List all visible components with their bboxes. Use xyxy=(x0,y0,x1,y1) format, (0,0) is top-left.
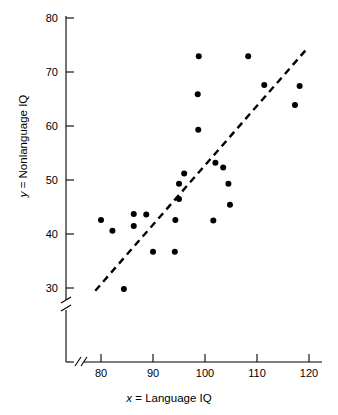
data-point xyxy=(195,127,201,133)
scatter-plot-figure: 304050607080 8090100110120 x = Language … xyxy=(0,0,338,415)
data-point xyxy=(292,102,298,108)
data-point xyxy=(245,53,251,59)
x-tick-label: 120 xyxy=(294,368,324,379)
x-axis-break-mark-left xyxy=(75,357,81,366)
data-point xyxy=(98,217,104,223)
data-point xyxy=(131,211,137,217)
y-axis-label: y = Nonlanguage IQ xyxy=(17,56,29,236)
y-axis-label-var: y xyxy=(17,192,29,198)
data-point xyxy=(220,165,226,171)
data-point xyxy=(196,53,202,59)
data-point xyxy=(181,171,187,177)
x-tick-label: 90 xyxy=(138,368,168,379)
data-point xyxy=(176,196,182,202)
data-point xyxy=(150,249,156,255)
x-tick-marks xyxy=(101,354,309,362)
data-point xyxy=(212,160,218,166)
data-point xyxy=(261,82,267,88)
data-point xyxy=(131,223,137,229)
y-tick-label: 50 xyxy=(30,175,58,186)
data-point xyxy=(109,228,115,234)
data-point xyxy=(225,181,231,187)
data-point xyxy=(297,83,303,89)
data-point xyxy=(176,181,182,187)
data-point xyxy=(210,218,216,224)
y-axis-label-rest: = Nonlanguage IQ xyxy=(17,95,29,192)
data-point xyxy=(172,249,178,255)
x-axis-label-rest: = Language IQ xyxy=(132,392,212,404)
data-point xyxy=(121,286,127,292)
y-tick-label: 30 xyxy=(30,283,58,294)
y-tick-label: 80 xyxy=(30,13,58,24)
y-tick-label: 40 xyxy=(30,229,58,240)
x-tick-label: 80 xyxy=(86,368,116,379)
data-point xyxy=(172,217,178,223)
data-point xyxy=(195,91,201,97)
x-tick-label: 100 xyxy=(190,368,220,379)
y-tick-label: 70 xyxy=(30,67,58,78)
y-tick-marks xyxy=(66,18,74,288)
plot-canvas xyxy=(0,0,338,415)
trend-line-segment xyxy=(95,49,307,291)
trend-line xyxy=(95,49,307,291)
y-tick-label: 60 xyxy=(30,121,58,132)
axes xyxy=(61,16,322,366)
x-tick-label: 110 xyxy=(242,368,272,379)
data-point xyxy=(227,202,233,208)
data-point xyxy=(143,212,149,218)
x-axis-label: x = Language IQ xyxy=(0,392,338,404)
